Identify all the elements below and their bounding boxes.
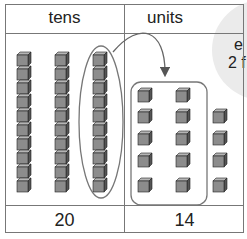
remaining-unit-cubes xyxy=(213,109,227,192)
tens-rod-2 xyxy=(55,52,69,192)
tens-rod-3-regrouped xyxy=(93,52,107,192)
grouped-unit-cubes xyxy=(138,88,190,192)
base-ten-blocks-illustration xyxy=(0,0,247,239)
tens-rod-1 xyxy=(17,52,31,192)
regroup-arrow xyxy=(113,33,165,72)
